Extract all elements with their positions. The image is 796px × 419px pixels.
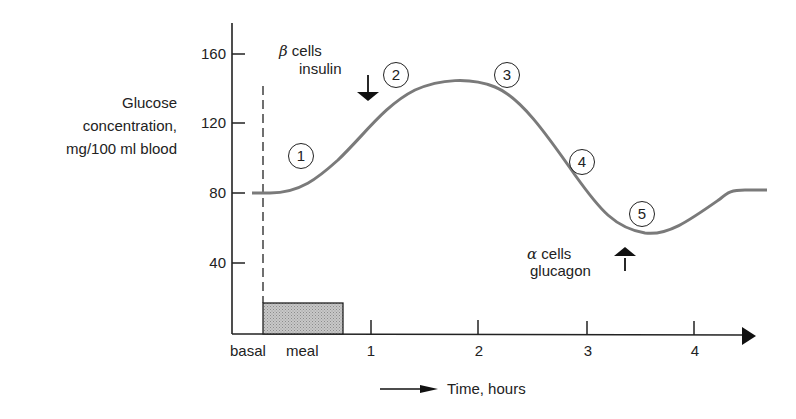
x-axis-arrowhead-icon: [742, 327, 756, 345]
glucagon-up-arrow-icon: [614, 247, 636, 271]
insulin-label: insulin: [299, 60, 342, 78]
glucagon-label: glucagon: [530, 262, 591, 280]
y-tick-label-40: 40: [186, 254, 226, 272]
meal-bar: [263, 303, 343, 334]
y-axis-label-line-2: concentration,: [83, 117, 177, 135]
y-tick-label-80: 80: [186, 184, 226, 202]
y-ticks: [232, 54, 245, 263]
phase-marker-4: 4: [569, 149, 595, 175]
x-tick-label-2: 2: [469, 342, 489, 360]
glucose-regulation-figure: Glucose concentration, mg/100 ml blood 1…: [0, 0, 796, 419]
insulin-down-arrow-icon: [357, 75, 379, 101]
x-tick-label-3: 3: [578, 342, 598, 360]
y-axis-label-line-1: Glucose: [122, 94, 177, 112]
glucose-curve: [252, 81, 767, 234]
alpha-symbol: α: [527, 245, 537, 263]
phase-marker-5: 5: [629, 201, 655, 227]
y-axis-label-line-3: mg/100 ml blood: [66, 140, 177, 158]
x-tick-label-1: 1: [361, 342, 381, 360]
alpha-cells-text: cells: [541, 245, 571, 262]
x-axis-label: Time, hours: [447, 380, 526, 398]
beta-cells-text: cells: [292, 42, 322, 59]
time-arrow-icon: [380, 385, 438, 393]
alpha-cells-label: α cells: [527, 245, 571, 263]
glucagon-text: glucagon: [530, 262, 591, 279]
y-tick-label-120: 120: [186, 114, 226, 132]
x-ticks: [371, 320, 694, 335]
phase-marker-3: 3: [494, 62, 520, 88]
phase-marker-2: 2: [383, 62, 409, 88]
x-label-meal: meal: [286, 342, 319, 360]
y-tick-label-160: 160: [186, 45, 226, 63]
beta-symbol: β: [279, 42, 288, 60]
x-label-basal: basal: [230, 342, 266, 360]
insulin-text: insulin: [299, 60, 342, 77]
phase-marker-1: 1: [288, 143, 314, 169]
beta-cells-label: β cells: [279, 42, 322, 60]
x-tick-label-4: 4: [685, 342, 705, 360]
